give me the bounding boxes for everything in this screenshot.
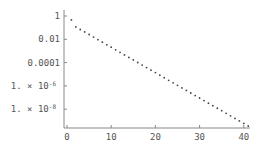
data-point [163, 77, 165, 79]
data-point [168, 79, 170, 81]
y-tick-label: 1. × 10-8 [11, 103, 57, 114]
data-point [190, 92, 192, 94]
data-point [132, 59, 134, 61]
data-point [119, 51, 121, 53]
data-point [225, 112, 227, 114]
data-point [212, 105, 214, 107]
data-point [115, 49, 117, 51]
data-point [97, 39, 99, 41]
data-points [71, 19, 250, 127]
y-ticks: 10.010.00011. × 10-61. × 10-8 [11, 11, 67, 114]
x-tick-label: 30 [194, 132, 205, 142]
data-point [243, 123, 245, 125]
data-point [185, 90, 187, 92]
data-point [150, 69, 152, 71]
data-point [208, 102, 210, 104]
y-tick-label: 1. × 10-6 [11, 80, 57, 91]
data-point [71, 19, 73, 21]
x-tick-label: 0 [64, 132, 69, 142]
data-point [230, 115, 232, 117]
data-point [146, 67, 148, 69]
y-tick-label: 0.0001 [27, 58, 60, 68]
data-point [75, 26, 77, 28]
data-point [101, 41, 103, 43]
data-point [238, 120, 240, 122]
data-point [247, 125, 249, 127]
data-point [141, 64, 143, 66]
data-point [221, 110, 223, 112]
x-tick-label: 10 [106, 132, 117, 142]
data-point [194, 95, 196, 97]
data-point [84, 31, 86, 33]
x-tick-label: 20 [150, 132, 161, 142]
data-point [172, 82, 174, 84]
data-point [181, 87, 183, 89]
y-tick-label: 0.01 [38, 34, 60, 44]
data-point [124, 54, 126, 56]
data-point [216, 107, 218, 109]
data-point [159, 74, 161, 76]
data-point [155, 72, 157, 74]
data-point [79, 29, 81, 31]
data-point [93, 36, 95, 38]
log-scatter-chart: 10.010.00011. × 10-61. × 10-8 010203040 [0, 0, 264, 148]
data-point [203, 100, 205, 102]
data-point [88, 34, 90, 36]
data-point [106, 44, 108, 46]
data-point [110, 46, 112, 48]
data-point [177, 84, 179, 86]
data-point [199, 97, 201, 99]
y-tick-label: 1 [55, 11, 60, 21]
data-point [234, 118, 236, 120]
data-point [128, 57, 130, 59]
x-tick-label: 40 [238, 132, 249, 142]
data-point [137, 62, 139, 64]
